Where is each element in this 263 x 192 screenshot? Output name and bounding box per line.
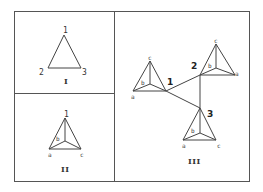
panel-label: I [64,76,68,86]
vertex-label-c: c [214,37,218,44]
panel-label: III [188,156,201,166]
tetrahedron-1: c b a 1 [131,54,173,100]
triangle [48,35,81,68]
edge [200,133,216,140]
vertex-label-1: 1 [63,26,68,35]
tetrahedron-id: 2 [191,61,197,71]
panel-ii: 1 b a c II [48,110,84,174]
edge [200,68,216,75]
diagram-canvas: 1 2 3 I 1 b a c II c b a 1 [0,0,263,192]
panel-i: 1 2 3 I [39,26,87,86]
vertex-label-3: 3 [82,68,87,77]
edge [183,133,200,140]
vertex-label-a: a [235,70,239,77]
vertex-label-b: b [56,135,60,142]
tetrahedron-3: 3 b a c [182,108,221,149]
tetrahedron-id: 1 [167,77,173,87]
vertex-label-a: a [48,151,52,158]
tetrahedron-id: 3 [207,109,213,119]
outline [200,44,235,75]
vertex-label-b: b [191,127,195,134]
panel-label: II [61,164,69,174]
vertex-label-c: c [80,151,84,158]
vertex-label-apex: 1 [64,110,69,119]
tetrahedron-2: c b a 2 [191,37,239,77]
vertex-label-a: a [131,93,135,100]
connector [166,91,200,108]
vertex-label-b: b [208,62,212,69]
edge [216,68,235,75]
vertex-label-c: c [148,54,152,61]
panel-iii: c b a 1 c b a 2 3 b a c III [131,37,239,166]
vertex-label-b: b [141,79,145,86]
vertex-label-2: 2 [39,68,44,77]
vertex-label-a: a [182,142,186,149]
vertex-label-c: c [217,142,221,149]
